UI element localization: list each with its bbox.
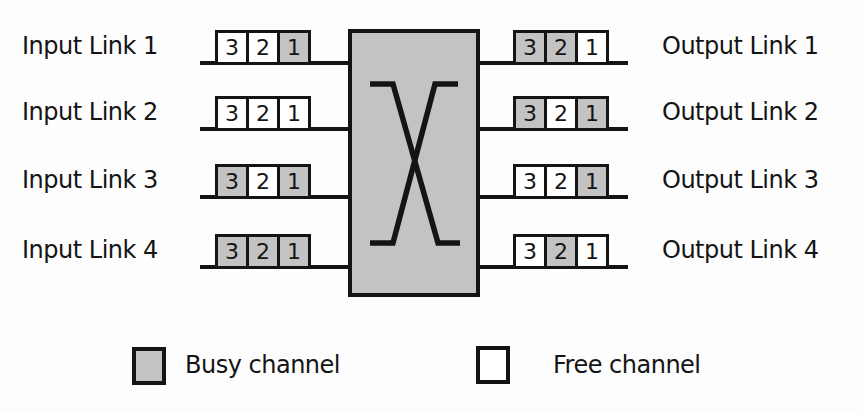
output-link-3-channels: 3 2 1 xyxy=(513,164,609,199)
output-link-2-label: Output Link 2 xyxy=(662,98,819,126)
channel-box: 1 xyxy=(575,164,609,199)
busy-channel-label: Busy channel xyxy=(185,350,340,380)
switch-box xyxy=(348,29,480,297)
channel-switch-diagram: Input Link 1 3 2 1 Input Link 2 3 2 1 In… xyxy=(0,0,863,411)
channel-box: 1 xyxy=(575,96,609,131)
channel-box: 2 xyxy=(544,96,578,131)
crossbar-cross-icon xyxy=(352,33,476,293)
free-channel-label: Free channel xyxy=(553,350,701,380)
channel-box: 3 xyxy=(513,164,547,199)
output-link-3-label: Output Link 3 xyxy=(662,166,819,194)
output-link-2-channels: 3 2 1 xyxy=(513,96,609,131)
channel-box: 3 xyxy=(513,30,547,65)
output-link-1-channels: 3 2 1 xyxy=(513,30,609,65)
channel-box: 3 xyxy=(513,96,547,131)
channel-box: 3 xyxy=(513,234,547,269)
output-link-1-label: Output Link 1 xyxy=(662,32,819,60)
channel-box: 2 xyxy=(544,234,578,269)
output-link-4-channels: 3 2 1 xyxy=(513,234,609,269)
channel-box: 2 xyxy=(544,164,578,199)
channel-box: 2 xyxy=(544,30,578,65)
free-channel-swatch xyxy=(476,346,510,384)
channel-box: 1 xyxy=(575,30,609,65)
busy-channel-swatch xyxy=(132,347,166,385)
output-link-4-label: Output Link 4 xyxy=(662,236,819,264)
channel-box: 1 xyxy=(575,234,609,269)
